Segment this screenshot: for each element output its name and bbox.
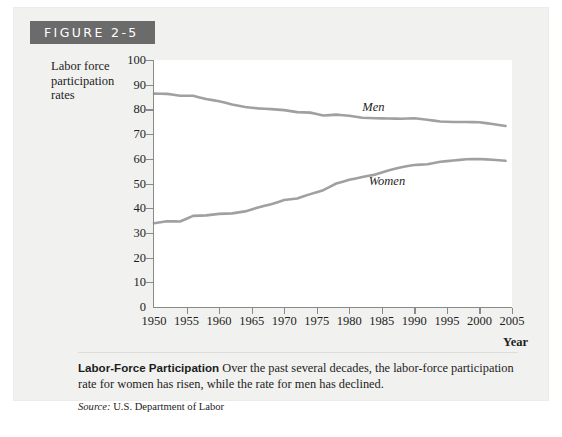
y-tick-mark <box>146 85 153 86</box>
x-tick-mark <box>219 308 220 314</box>
y-tick-label: 50 <box>106 176 146 191</box>
x-tick-label: 2000 <box>467 314 492 329</box>
y-tick-label: 70 <box>106 127 146 142</box>
y-tick-label: 40 <box>106 201 146 216</box>
x-tick-label: 1950 <box>142 314 167 329</box>
y-tick-label: 20 <box>106 250 146 265</box>
y-tick-mark <box>146 134 153 135</box>
y-tick-label: 30 <box>106 225 146 240</box>
caption-block: Labor-Force Participation Over the past … <box>78 360 518 412</box>
x-tick-label: 2005 <box>500 314 525 329</box>
x-tick-mark <box>317 308 318 314</box>
x-tick-label: 1960 <box>207 314 232 329</box>
figure-panel: FIGURE 2-5 Labor force participation rat… <box>14 8 548 400</box>
y-tick-label: 0 <box>106 300 146 315</box>
figure-number-label: FIGURE 2-5 <box>44 25 139 40</box>
x-tick-mark <box>512 308 513 314</box>
figure-number-banner: FIGURE 2-5 <box>30 21 155 44</box>
caption-lead: Labor-Force Participation <box>78 361 219 374</box>
source-label: Source: <box>78 401 111 412</box>
y-tick-mark <box>146 233 153 234</box>
y-tick-mark <box>146 159 153 160</box>
x-tick-mark <box>252 308 253 314</box>
x-axis-line <box>153 307 512 308</box>
x-axis-title: Year <box>503 335 528 350</box>
caption-text: Labor-Force Participation Over the past … <box>78 360 518 392</box>
y-tick-label: 10 <box>106 275 146 290</box>
y-tick-label: 90 <box>106 77 146 92</box>
x-tick-label: 1955 <box>174 314 199 329</box>
x-tick-mark <box>479 308 480 314</box>
y-tick-mark <box>146 109 153 110</box>
x-tick-mark <box>187 308 188 314</box>
y-tick-mark <box>146 282 153 283</box>
x-tick-mark <box>414 308 415 314</box>
y-tick-mark <box>146 60 153 61</box>
x-tick-label: 1975 <box>304 314 329 329</box>
x-tick-label: 1995 <box>434 314 459 329</box>
y-tick-label: 100 <box>106 53 146 68</box>
x-tick-label: 1965 <box>239 314 264 329</box>
series-label-women: Women <box>369 174 405 189</box>
x-tick-mark <box>349 308 350 314</box>
y-axis-line <box>153 60 154 308</box>
chart-lines <box>154 60 512 307</box>
x-tick-mark <box>382 308 383 314</box>
y-tick-mark <box>146 258 153 259</box>
series-line-women <box>154 159 505 223</box>
caption-divider <box>78 352 518 353</box>
y-tick-label: 80 <box>106 102 146 117</box>
series-label-men: Men <box>362 100 384 115</box>
x-tick-label: 1970 <box>272 314 297 329</box>
caption-source: Source: U.S. Department of Labor <box>78 401 518 412</box>
x-tick-label: 1985 <box>369 314 394 329</box>
source-value: U.S. Department of Labor <box>113 401 224 412</box>
x-tick-label: 1980 <box>337 314 362 329</box>
y-tick-mark <box>146 184 153 185</box>
x-tick-mark <box>447 308 448 314</box>
plot-area <box>154 60 512 307</box>
series-line-men <box>154 94 505 126</box>
x-tick-label: 1990 <box>402 314 427 329</box>
x-tick-mark <box>284 308 285 314</box>
y-tick-label: 60 <box>106 151 146 166</box>
y-tick-mark <box>146 208 153 209</box>
chart-container: Labor force participation rates 01020304… <box>30 52 532 342</box>
